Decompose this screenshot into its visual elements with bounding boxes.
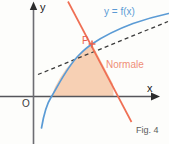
x-axis-label: x xyxy=(147,83,153,94)
figure-caption: Fig. 4 xyxy=(136,126,159,135)
function-curve-label: y = f(x) xyxy=(104,7,135,17)
y-axis-arrowhead xyxy=(30,2,37,11)
point-p-label: P xyxy=(82,36,89,46)
normal-line-label: Normale xyxy=(106,60,144,70)
origin-label: O xyxy=(22,99,30,109)
figure-graphic xyxy=(0,0,169,144)
y-axis-label: y xyxy=(40,2,46,13)
figure-container: y x O y = f(x) P Normale Fig. 4 xyxy=(0,0,169,144)
